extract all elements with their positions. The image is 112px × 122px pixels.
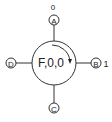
port-b-value: 1 <box>103 59 108 69</box>
port-a-value: 0 <box>51 3 56 12</box>
port-b[interactable]: B <box>91 58 101 69</box>
port-a[interactable]: A <box>49 15 59 26</box>
port-a-label: A <box>51 17 57 26</box>
port-c[interactable]: C <box>49 103 59 114</box>
port-d[interactable]: D <box>6 58 16 69</box>
port-c-label: C <box>51 105 57 114</box>
port-b-label: B <box>93 60 98 69</box>
port-d-label: D <box>8 60 14 69</box>
center-node[interactable]: F,0,0 <box>32 41 76 85</box>
center-node-label: F,0,0 <box>38 56 64 70</box>
node-diagram: F,0,0 A 0 B 1 D C <box>0 0 112 122</box>
